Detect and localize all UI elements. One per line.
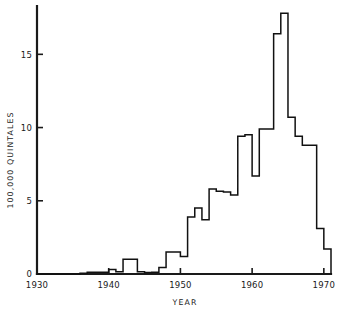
y-tick-label: 15 — [21, 50, 32, 60]
x-tick-label: 1930 — [26, 280, 48, 290]
x-tick-label: 1960 — [241, 280, 263, 290]
x-tick-label: 1950 — [169, 280, 191, 290]
y-tick-label: 10 — [21, 123, 32, 133]
y-axis-tick-labels: 051015 — [21, 50, 32, 280]
x-axis-tick-labels: 19301940195019601970 — [26, 280, 335, 290]
x-tick-label: 1940 — [97, 280, 119, 290]
data-series-quintales — [37, 13, 331, 274]
y-axis-title: 100,000 QUINTALES — [6, 111, 15, 208]
x-axis-title: YEAR — [172, 298, 198, 307]
chart-container: 051015 19301940195019601970 100,000 QUIN… — [0, 0, 344, 313]
x-tick-label: 1970 — [313, 280, 335, 290]
step-chart-plot: 051015 19301940195019601970 100,000 QUIN… — [0, 0, 344, 313]
y-tick-label: 0 — [26, 269, 32, 279]
y-tick-label: 5 — [26, 196, 32, 206]
